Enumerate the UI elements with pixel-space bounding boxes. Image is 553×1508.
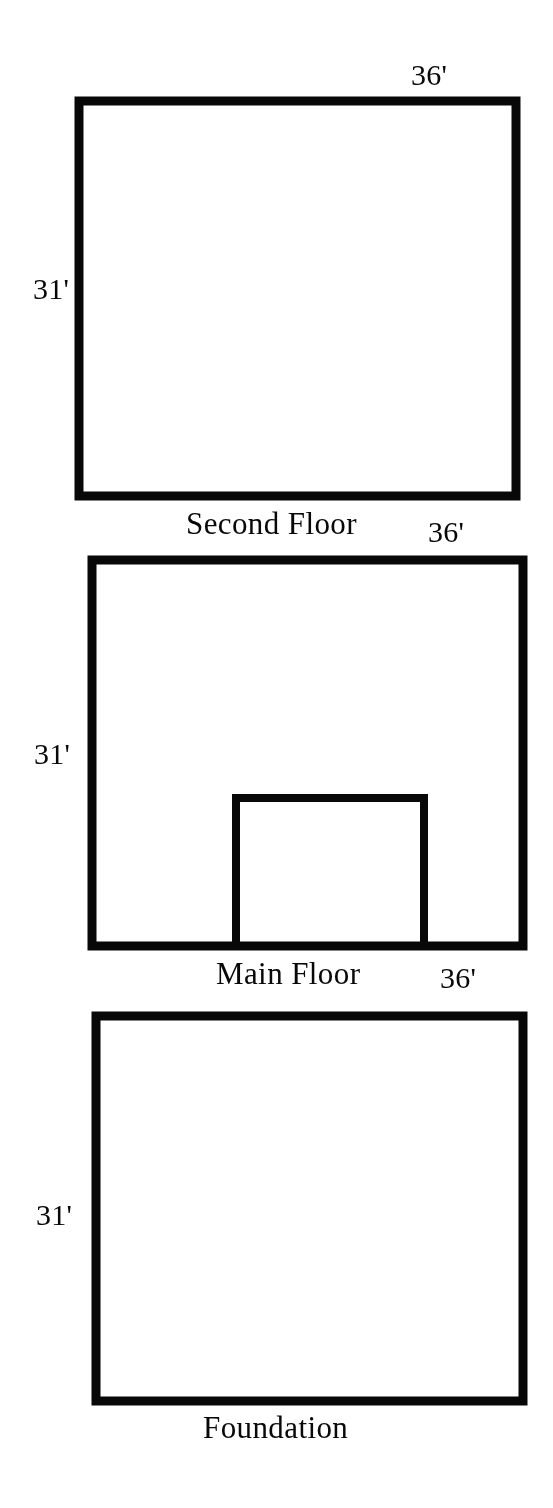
second-floor-outline [0, 0, 553, 553]
floor-plan-diagram: 36' 31' Second Floor 36' 31' Main Floor … [0, 0, 553, 1508]
floor-group-foundation: 36' 31' Foundation [0, 960, 553, 1508]
foundation-outline [0, 960, 553, 1508]
floor-group-main-floor: 36' 31' Main Floor [0, 513, 553, 983]
floor-group-second-floor: 36' 31' Second Floor [0, 0, 553, 553]
main-floor-outline [0, 513, 553, 983]
